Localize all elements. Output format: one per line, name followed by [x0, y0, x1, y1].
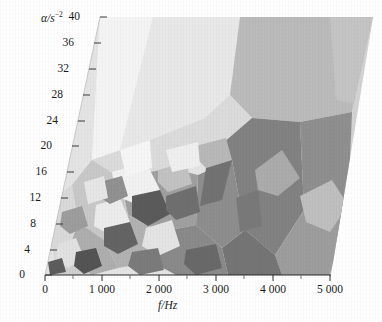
y-tick-label-0: 0	[3, 269, 25, 281]
x-axis-ticks	[45, 275, 330, 281]
x-tick-label-1000: 1 000	[78, 284, 126, 296]
x-tick-label-2000: 2 000	[135, 284, 183, 296]
y-axis-title-exponent: −2	[55, 10, 63, 19]
x-tick-label-5000: 5 000	[306, 284, 354, 296]
x-axis-title: f/Hz	[158, 300, 177, 312]
y-tick-label-32: 32	[47, 63, 69, 75]
y-axis-title: α/s−2	[41, 11, 63, 24]
y-tick-label-28: 28	[41, 89, 63, 101]
y-tick-label-24: 24	[36, 115, 58, 127]
y-axis-title-text: α/s	[41, 12, 55, 24]
y-tick-label-12: 12	[19, 192, 41, 204]
x-tick-label-4000: 4 000	[249, 284, 297, 296]
y-tick-label-36: 36	[52, 37, 74, 49]
y-tick-label-16: 16	[25, 166, 47, 178]
y-tick-label-20: 20	[30, 140, 52, 152]
x-axis-minor-ticks	[73, 275, 301, 279]
y-tick-label-8: 8	[14, 218, 36, 230]
y-tick-label-4: 4	[8, 244, 30, 256]
x-tick-label-0: 0	[35, 284, 55, 296]
x-tick-label-3000: 3 000	[192, 284, 240, 296]
